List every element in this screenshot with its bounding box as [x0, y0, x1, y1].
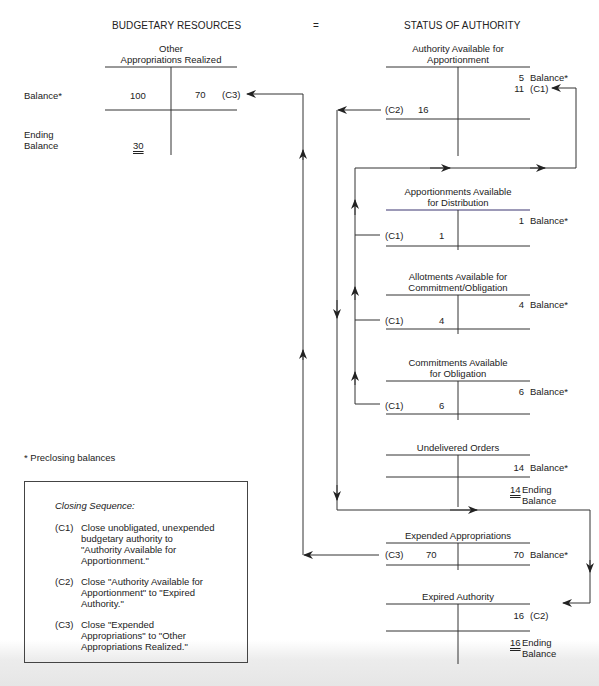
account-title: Apportionment: [386, 54, 530, 65]
credit-value: 11: [500, 83, 524, 94]
credit-label: Balance*: [530, 299, 568, 310]
credit-label: Balance*: [530, 215, 568, 226]
step-text: Apportionment" to "Expired: [81, 587, 195, 598]
debit-value: 16: [418, 104, 429, 115]
account-title: for Distribution: [386, 197, 530, 208]
ending-value: 14: [510, 484, 521, 495]
credit-value: 1: [500, 215, 524, 226]
credit-value: 14: [500, 462, 524, 473]
debit-value: 4: [439, 315, 444, 326]
closing-sequence-title: Closing Sequence:: [55, 500, 135, 511]
budgetary-resources-heading: BUDGETARY RESOURCES: [112, 20, 241, 31]
step-text: Authority.": [81, 598, 124, 609]
credit-ref: (C2): [530, 610, 548, 621]
account-title: Undelivered Orders: [386, 442, 530, 453]
account-title: Commitments Available: [386, 357, 530, 368]
debit-value: 1: [439, 230, 444, 241]
footnote-preclosing: * Preclosing balances: [24, 452, 115, 463]
credit-value: 16: [500, 610, 524, 621]
account-title: Other: [105, 43, 237, 54]
debit-value: 100: [130, 90, 146, 101]
step-text: Close unobligated, unexpended: [81, 522, 215, 533]
ending-label: Balance: [522, 495, 556, 506]
step-text: Close "Authority Available for: [81, 576, 203, 587]
credit-value: 6: [500, 386, 524, 397]
ending-label: Ending: [522, 637, 552, 648]
account-title: Expended Appropriations: [386, 530, 530, 541]
credit-label: Balance*: [530, 549, 568, 560]
step-text: "Authority Available for: [81, 544, 176, 555]
account-title: Allotments Available for: [386, 271, 530, 282]
step-code: (C2): [55, 576, 73, 587]
ending-label: Ending: [522, 484, 552, 495]
debit-ref: (C2): [385, 104, 403, 115]
debit-ref: (C1): [385, 315, 403, 326]
step-text: Appropriations Realized.": [81, 641, 188, 652]
debit-value: 70: [426, 549, 437, 560]
step-text: Close "Expended: [81, 619, 154, 630]
credit-value: 5: [500, 72, 524, 83]
closing-sequence-box: Closing Sequence: (C1) Close unobligated…: [24, 481, 248, 663]
ending-label: Balance: [24, 140, 58, 151]
account-title: for Obligation: [386, 368, 530, 379]
account-title: Authority Available for: [386, 43, 530, 54]
step-code: (C1): [55, 522, 73, 533]
credit-label: Balance*: [530, 72, 568, 83]
credit-value: 70: [195, 89, 206, 100]
status-of-authority-heading: STATUS OF AUTHORITY: [404, 20, 521, 31]
debit-ref: (C3): [385, 549, 403, 560]
account-title: Commitment/Obligation: [386, 282, 530, 293]
ending-label: Ending: [24, 129, 54, 140]
credit-label: Balance*: [530, 462, 568, 473]
step-code: (C3): [55, 619, 73, 630]
credit-ref: (C3): [222, 89, 240, 100]
ending-value: 16: [510, 637, 521, 648]
credit-value: 4: [500, 299, 524, 310]
account-title: Expired Authority: [386, 591, 530, 602]
credit-value: 70: [500, 549, 524, 560]
account-title: Appropriations Realized: [105, 54, 237, 65]
step-text: Appropriations" to "Other: [81, 630, 186, 641]
credit-label: Balance*: [530, 386, 568, 397]
step-text: Apportionment.": [81, 555, 149, 566]
credit-ref: (C1): [530, 83, 548, 94]
row-label-balance: Balance*: [24, 90, 62, 101]
ending-label: Balance: [522, 648, 556, 659]
step-text: budgetary authority to: [81, 533, 173, 544]
debit-ref: (C1): [385, 230, 403, 241]
account-title: Apportionments Available: [386, 186, 530, 197]
ending-value: 30: [133, 140, 144, 151]
debit-value: 6: [439, 400, 444, 411]
equals-sign: =: [313, 20, 319, 31]
debit-ref: (C1): [385, 400, 403, 411]
